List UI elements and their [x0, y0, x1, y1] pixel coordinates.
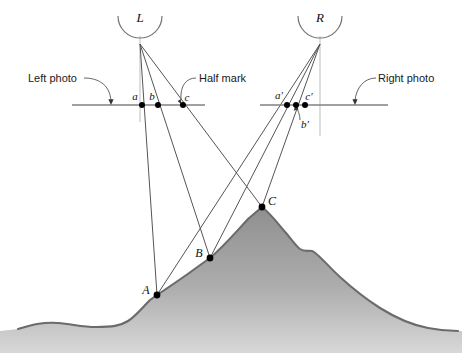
- ray-right-to-C: [262, 44, 320, 207]
- point-C-label: C: [268, 194, 277, 208]
- annotation-half-mark: Half mark: [199, 72, 247, 84]
- annotation-left-photo: Left photo: [28, 72, 77, 84]
- point-C: [259, 204, 266, 211]
- diagram-canvas: L R Left photo Half mark Right ph: [0, 0, 462, 353]
- terrain-group: [0, 207, 462, 353]
- point-a-label: a: [132, 90, 138, 102]
- point-b-label: b: [149, 90, 155, 102]
- ray-left-to-A: [140, 44, 157, 295]
- arrowhead-right-photo: [352, 99, 357, 105]
- point-b-prime-label: b′: [301, 118, 310, 130]
- point-a: [139, 102, 145, 108]
- lens-group: L R: [118, 10, 342, 38]
- point-c-label: c: [185, 91, 190, 103]
- photogrammetry-diagram: L R Left photo Half mark Right ph: [0, 0, 462, 353]
- ray-left-to-C: [140, 44, 262, 207]
- leader-lines-group: [84, 78, 376, 120]
- annotation-right-photo: Right photo: [378, 72, 434, 84]
- point-A: [154, 292, 161, 299]
- arrowhead-left-photo: [108, 99, 113, 105]
- point-a-prime-label: a′: [275, 89, 284, 101]
- point-c-prime: [302, 102, 308, 108]
- lens-left-label: L: [135, 10, 143, 25]
- point-B-label: B: [195, 246, 203, 260]
- point-c-prime-label: c′: [305, 90, 313, 102]
- point-b-prime: [293, 102, 299, 108]
- lens-right-label: R: [315, 10, 324, 25]
- point-B: [207, 255, 214, 262]
- point-a-prime: [284, 102, 290, 108]
- leader-right-photo: [355, 78, 376, 101]
- point-A-label: A: [141, 283, 150, 297]
- terrain-fill: [0, 207, 462, 353]
- point-b: [155, 102, 161, 108]
- leader-left-photo: [84, 78, 111, 101]
